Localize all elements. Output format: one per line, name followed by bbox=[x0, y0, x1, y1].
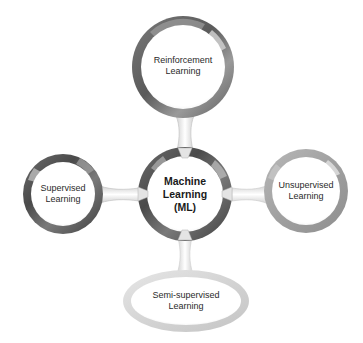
connector-left bbox=[100, 186, 139, 203]
node-semi-supervised-label: Semi-supervised Learning bbox=[136, 283, 236, 319]
center-ml-label: Machine Learning (ML) bbox=[148, 171, 222, 217]
connector-right bbox=[232, 185, 268, 204]
node-reinforcement-label: Reinforcement Learning bbox=[141, 48, 225, 84]
node-unsupervised-label: Unsupervised Learning bbox=[270, 173, 342, 209]
connector-top bbox=[176, 116, 194, 150]
node-supervised-label: Supervised Learning bbox=[31, 176, 95, 212]
connector-bottom bbox=[177, 238, 193, 274]
ml-types-diagram: Reinforcement Learning Supervised Learni… bbox=[0, 0, 363, 343]
